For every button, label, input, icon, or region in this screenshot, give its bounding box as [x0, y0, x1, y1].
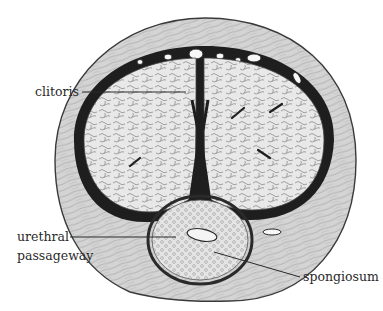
label-spongiosum: spongiosum — [303, 271, 379, 284]
label-clitoris: clitoris — [35, 86, 79, 99]
label-urethral-line1: urethral — [17, 231, 69, 244]
cross-section-illustration — [0, 0, 383, 311]
label-urethral-line2: passageway — [17, 250, 93, 263]
